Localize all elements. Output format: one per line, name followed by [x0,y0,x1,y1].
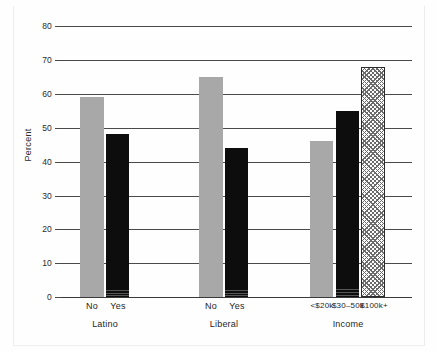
y-tick-mark-10 [55,263,61,264]
x-axis-line [61,297,412,298]
y-tick-mark-70 [55,60,61,61]
cat-income-100k-plus: $100k+ [360,301,388,310]
print-streak [106,293,129,294]
cat-liberal-yes: Yes [229,301,244,311]
cat-latino-no: No [86,301,98,311]
gridline-80 [61,26,412,27]
plot-area: 01020304050607080 Percent NoYesNoYes<$20… [0,0,437,352]
group-liberal: Liberal [210,319,238,329]
y-tick-label-60: 60 [2,89,52,99]
print-streak [225,293,248,294]
y-tick-mark-80 [55,26,61,27]
group-latino: Latino [92,319,118,329]
gridline-70 [61,60,412,61]
y-tick-label-30: 30 [2,191,52,201]
y-tick-mark-50 [55,128,61,129]
y-tick-label-70: 70 [2,55,52,65]
y-tick-label-10: 10 [2,258,52,268]
bar-liberal-no[interactable] [199,77,223,297]
cat-income-under-20k: <$20k [310,301,333,310]
bar-liberal-yes[interactable] [225,148,248,297]
print-streak [336,289,359,290]
bar-income-30-50k[interactable] [336,111,359,297]
bar-latino-yes[interactable] [106,134,129,297]
gridline-60 [61,94,412,95]
y-tick-label-80: 80 [2,21,52,31]
y-tick-mark-30 [55,196,61,197]
gridline-50 [61,128,412,129]
y-tick-mark-20 [55,229,61,230]
cat-liberal-no: No [205,301,217,311]
cat-latino-yes: Yes [110,301,125,311]
print-streak [225,290,248,291]
print-streak [336,292,359,293]
print-streak [336,295,359,296]
bar-income-under-20k[interactable] [310,141,333,297]
y-tick-mark-40 [55,162,61,163]
print-streak [106,295,129,296]
group-income: Income [333,319,364,329]
y-tick-label-0: 0 [2,292,52,302]
bar-latino-no[interactable] [80,97,104,297]
chart-figure: 01020304050607080 Percent NoYesNoYes<$20… [0,0,437,352]
print-streak [225,295,248,296]
bar-income-100k-plus[interactable] [361,67,385,297]
print-streak [106,290,129,291]
y-tick-mark-60 [55,94,61,95]
y-axis-label: Percent [23,110,33,180]
y-tick-label-20: 20 [2,224,52,234]
